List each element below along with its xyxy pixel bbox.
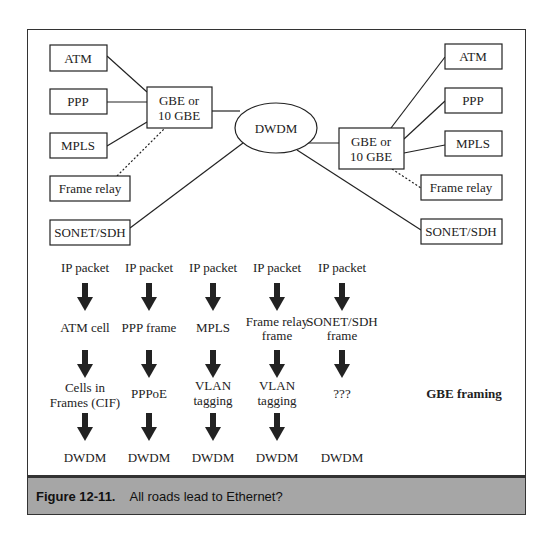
stack-3-layer-3a: VLAN [195,378,232,393]
arrow-down-icon [77,413,93,441]
stack-3-layer-1: IP packet [189,260,238,275]
stack-2-layer-4: DWDM [128,450,171,465]
stack-1-layer-4: DWDM [64,450,107,465]
arrow-down-icon [141,350,157,378]
arrow-down-icon [141,283,157,311]
figure-number: Figure 12-11. [36,489,115,504]
left-atm-label: ATM [64,51,92,66]
stack-4-layer-2a: Frame relay [246,314,309,329]
left-gbe-label-2: 10 GBE [158,108,200,123]
arrow-down-icon [77,350,93,378]
arrow-down-icon [77,283,93,311]
stack-3-layer-2: MPLS [196,320,230,335]
right-ppp-label: PPP [462,93,484,108]
stack-5-layer-1: IP packet [318,260,367,275]
arrow-down-icon [205,413,221,441]
stack-2-layer-3: PPPoE [131,386,167,401]
arrow-down-icon [205,350,221,378]
stack-4-layer-4: DWDM [256,450,299,465]
left-sonet-label: SONET/SDH [54,225,126,240]
stack-2-layer-1: IP packet [125,260,174,275]
stack-5-layer-2b: frame [327,328,358,343]
stack-4-layer-3b: tagging [258,393,297,408]
arrow-down-icon [141,413,157,441]
arrow-down-icon [269,350,285,378]
left-gbe-label-1: GBE or [159,93,200,108]
arrow-down-icon [205,283,221,311]
stack-1-layer-3a: Cells in [65,380,106,395]
right-sonet-label: SONET/SDH [425,224,497,239]
stack-3-layer-3b: tagging [194,393,233,408]
stack-5-layer-2a: SONET/SDH [306,314,378,329]
right-mpls-label: MPLS [456,136,490,151]
right-gbe-label-1: GBE or [351,134,392,149]
stack-4-layer-3a: VLAN [259,378,296,393]
stack-5-layer-4: DWDM [321,450,364,465]
network-diagram: ATM PPP MPLS Frame relay SONET/SDH GBE o… [0,0,553,535]
stack-1-layer-3b: Frames (CIF) [50,395,120,410]
dwdm-label: DWDM [255,121,298,136]
right-gbe-label-2: 10 GBE [350,149,392,164]
arrow-down-icon [334,283,350,311]
stack-4-layer-1: IP packet [253,260,302,275]
stack-2-layer-2: PPP frame [122,320,177,335]
arrow-down-icon [269,413,285,441]
right-frame-relay-label: Frame relay [430,180,493,195]
gbe-framing-label: GBE framing [426,386,502,401]
stack-4-layer-2b: frame [262,328,293,343]
arrow-down-icon [269,283,285,311]
left-mpls-label: MPLS [61,138,95,153]
right-atm-label: ATM [459,49,487,64]
stack-5-layer-3: ??? [333,386,351,401]
stack-1-layer-1: IP packet [61,260,110,275]
figure-caption-text: All roads lead to Ethernet? [129,489,282,504]
stack-3-layer-4: DWDM [192,450,235,465]
figure-caption: Figure 12-11. All roads lead to Ethernet… [27,475,526,515]
arrow-down-icon [334,350,350,378]
left-ppp-label: PPP [67,94,89,109]
stack-1-layer-2: ATM cell [60,320,110,335]
left-frame-relay-label: Frame relay [59,181,122,196]
